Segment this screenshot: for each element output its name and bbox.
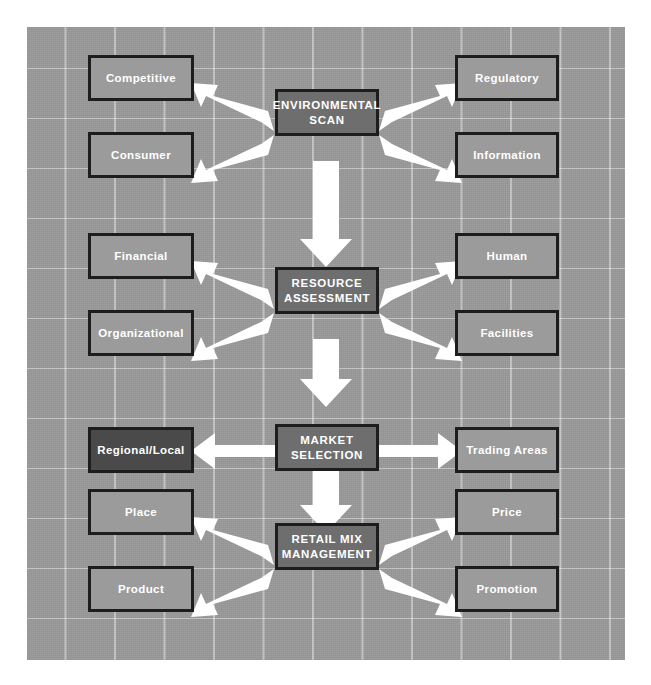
arrow-retail-mix-to-place	[191, 517, 274, 565]
node-regulatory-label: Regulatory	[475, 71, 539, 85]
arrow-resource-assessment-to-financial	[191, 261, 274, 309]
diagram-board: Competitive Consumer ENVIRONMENTAL SCAN …	[27, 27, 625, 660]
node-consumer[interactable]: Consumer	[88, 132, 194, 178]
node-resource-assessment-line1: RESOURCE	[284, 276, 370, 290]
arrow-resource-assessment-to-organizational	[191, 313, 274, 361]
arrow-env-scan-to-competitive	[191, 83, 274, 131]
node-environmental-scan-line2: SCAN	[273, 113, 382, 127]
arrow-env-scan-to-regulatory	[379, 83, 462, 131]
arrow-retail-mix-to-product	[191, 569, 274, 617]
node-trading-areas[interactable]: Trading Areas	[455, 427, 559, 473]
node-product[interactable]: Product	[88, 566, 194, 612]
node-information[interactable]: Information	[455, 132, 559, 178]
arrow-env-scan-to-consumer	[191, 135, 274, 183]
node-product-label: Product	[118, 582, 164, 596]
node-regional-local[interactable]: Regional/Local	[88, 427, 194, 473]
arrow-env-scan-to-resource-assessment	[300, 161, 352, 267]
node-organizational[interactable]: Organizational	[88, 310, 194, 356]
node-regulatory[interactable]: Regulatory	[455, 55, 559, 101]
node-regional-local-label: Regional/Local	[97, 443, 184, 457]
arrow-resource-assessment-to-human	[379, 261, 462, 309]
node-trading-areas-label: Trading Areas	[466, 443, 547, 457]
node-financial[interactable]: Financial	[88, 233, 194, 279]
arrow-retail-mix-to-price	[379, 517, 462, 565]
node-environmental-scan[interactable]: ENVIRONMENTAL SCAN	[275, 89, 379, 136]
node-organizational-label: Organizational	[98, 326, 183, 340]
arrow-resource-assessment-to-facilities	[379, 313, 462, 361]
diagram-canvas: Competitive Consumer ENVIRONMENTAL SCAN …	[0, 0, 651, 685]
arrow-resource-assessment-to-market-selection	[300, 339, 352, 407]
node-competitive[interactable]: Competitive	[88, 55, 194, 101]
node-market-selection-line2: SELECTION	[291, 448, 363, 462]
node-retail-mix-management-line1: RETAIL MIX	[282, 532, 373, 546]
arrow-env-scan-to-information	[379, 135, 462, 183]
node-financial-label: Financial	[114, 249, 167, 263]
node-information-label: Information	[473, 148, 541, 162]
node-market-selection[interactable]: MARKET SELECTION	[275, 424, 379, 471]
node-environmental-scan-line1: ENVIRONMENTAL	[273, 98, 382, 112]
node-promotion-label: Promotion	[476, 582, 537, 596]
node-human-label: Human	[487, 249, 528, 263]
node-price[interactable]: Price	[455, 489, 559, 535]
node-price-label: Price	[492, 505, 522, 519]
node-promotion[interactable]: Promotion	[455, 566, 559, 612]
node-place-label: Place	[125, 505, 157, 519]
node-facilities[interactable]: Facilities	[455, 310, 559, 356]
node-resource-assessment[interactable]: RESOURCE ASSESSMENT	[275, 267, 379, 314]
node-facilities-label: Facilities	[480, 326, 533, 340]
node-retail-mix-management[interactable]: RETAIL MIX MANAGEMENT	[275, 523, 379, 570]
node-human[interactable]: Human	[455, 233, 559, 279]
node-place[interactable]: Place	[88, 489, 194, 535]
node-resource-assessment-line2: ASSESSMENT	[284, 291, 370, 305]
arrow-retail-mix-to-promotion	[379, 569, 462, 617]
node-competitive-label: Competitive	[106, 71, 176, 85]
node-consumer-label: Consumer	[111, 148, 171, 162]
node-retail-mix-management-line2: MANAGEMENT	[282, 547, 373, 561]
arrow-market-selection-to-regional-local	[191, 427, 275, 469]
node-market-selection-line1: MARKET	[291, 433, 363, 447]
arrow-market-selection-to-trading-areas	[378, 433, 462, 469]
